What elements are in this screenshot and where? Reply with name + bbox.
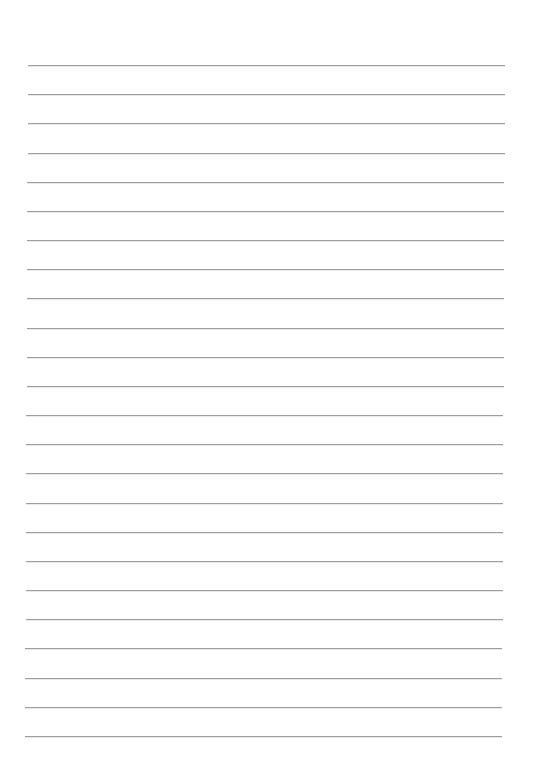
ruled-line (26, 444, 503, 445)
ruled-line (27, 298, 504, 299)
ruled-line (28, 153, 505, 154)
lined-paper-page (0, 0, 547, 770)
ruled-line (27, 240, 504, 241)
ruled-line (28, 65, 505, 66)
ruled-line (28, 123, 505, 124)
ruled-line (25, 648, 502, 649)
ruled-line (26, 473, 503, 474)
ruled-line (25, 678, 502, 679)
ruled-line (26, 590, 503, 591)
ruled-line (27, 211, 504, 212)
ruled-line (27, 328, 504, 329)
ruled-line (25, 736, 502, 737)
ruled-line (28, 94, 505, 95)
ruled-line (26, 503, 503, 504)
ruled-line (25, 707, 502, 708)
ruled-line (27, 357, 504, 358)
ruled-line (27, 269, 504, 270)
ruled-line (26, 619, 503, 620)
ruled-line (26, 415, 503, 416)
ruled-line (27, 182, 504, 183)
ruled-line (27, 386, 504, 387)
ruled-line (26, 532, 503, 533)
ruled-line (26, 561, 503, 562)
